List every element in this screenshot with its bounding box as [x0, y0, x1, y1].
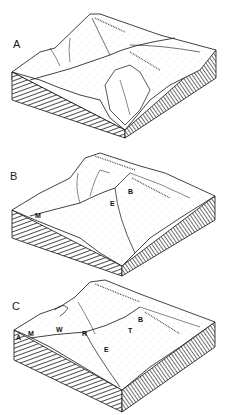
- label-m: M: [35, 212, 41, 219]
- block-b-drawing: M E B: [0, 138, 231, 278]
- panel-label-b: B: [10, 170, 17, 182]
- block-diagram-a: A: [0, 0, 231, 140]
- label-a: A: [16, 334, 21, 341]
- panel-label-a: A: [13, 38, 20, 50]
- label-t: T: [128, 327, 133, 334]
- label-e: E: [110, 200, 115, 207]
- block-c-drawing: A M W R E T B: [0, 272, 231, 415]
- block-a-drawing: [0, 0, 231, 140]
- block-diagram-b: B M E B: [0, 138, 231, 278]
- block-diagram-c: C A M W R E T B: [0, 272, 231, 415]
- label-b: B: [128, 188, 133, 195]
- label-b: B: [138, 316, 143, 323]
- label-r: R: [82, 330, 87, 337]
- panel-label-c: C: [12, 300, 20, 312]
- label-m: M: [28, 330, 34, 337]
- label-w: W: [56, 326, 63, 333]
- label-e: E: [104, 346, 109, 353]
